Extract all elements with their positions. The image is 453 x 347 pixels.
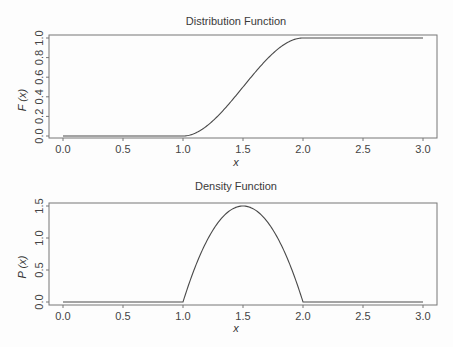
x-axis: 0.00.51.01.52.02.53.0 [55,138,430,155]
y-tick-label: 1.5 [33,198,45,213]
y-tick-label: 1.0 [33,230,45,245]
x-tick-label: 0.0 [55,310,70,322]
y-tick-label: 0.2 [33,109,45,124]
x-tick-label: 1.0 [175,310,190,322]
plot-frame [49,203,437,305]
x-tick-label: 1.0 [175,143,190,155]
y-tick-label: 0.4 [33,89,45,104]
pdf-curve [63,206,423,302]
x-axis: 0.00.51.01.52.02.53.0 [55,305,430,322]
distribution-chart: Distribution Function 0.00.20.40.60.81.0… [16,15,437,168]
x-tick-label: 3.0 [415,310,430,322]
y-tick-label: 0.0 [33,294,45,309]
x-axis-label: x [232,156,239,168]
x-tick-label: 3.0 [415,143,430,155]
y-axis-label: F (x) [16,88,28,111]
x-tick-label: 2.0 [295,310,310,322]
x-tick-label: 1.5 [235,310,250,322]
x-tick-label: 2.0 [295,143,310,155]
x-tick-label: 0.5 [115,310,130,322]
x-tick-label: 1.5 [235,143,250,155]
x-tick-label: 0.5 [115,143,130,155]
figure: Distribution Function 0.00.20.40.60.81.0… [0,0,453,347]
cdf-curve [63,38,423,136]
y-axis: 0.00.51.01.5 [33,198,49,309]
chart-title: Distribution Function [186,15,286,27]
y-tick-label: 1.0 [33,30,45,45]
y-axis-label: P (x) [16,255,28,278]
x-axis-label: x [232,322,239,334]
chart-title: Density Function [195,180,277,192]
y-axis: 0.00.20.40.60.81.0 [33,30,49,143]
y-tick-label: 0.6 [33,70,45,85]
x-tick-label: 2.5 [355,310,370,322]
x-tick-label: 0.0 [55,143,70,155]
y-tick-label: 0.5 [33,262,45,277]
density-chart: Density Function 0.00.51.01.5 0.00.51.01… [16,180,437,334]
x-tick-label: 2.5 [355,143,370,155]
y-tick-label: 0.0 [33,128,45,143]
y-tick-label: 0.8 [33,50,45,65]
